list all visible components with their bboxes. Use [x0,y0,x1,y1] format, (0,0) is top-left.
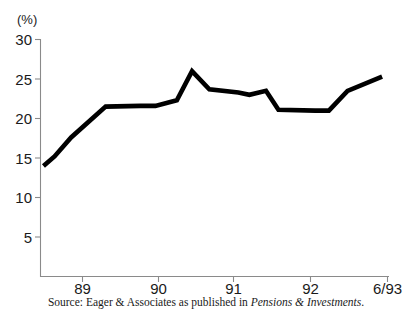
line-chart: 30 25 20 15 10 5 (%) 89 90 91 9 [0,0,412,317]
source-note-prefix: Source: Eager & Associates as published … [48,296,251,308]
source-note: Source: Eager & Associates as published … [0,296,412,308]
x-tick-label-89: 89 [74,280,91,297]
y-tick-label-25: 25 [15,71,32,88]
y-axis-unit-label: (%) [17,12,37,27]
y-axis: 30 25 20 15 10 5 (%) [15,12,40,277]
x-axis: 89 90 91 92 6/93 [40,277,402,298]
y-tick-label-10: 10 [15,189,32,206]
x-tick-label-90: 90 [150,280,167,297]
source-note-suffix: . [361,296,364,308]
x-tick-label-91: 91 [225,280,242,297]
y-tick-label-20: 20 [15,110,32,127]
y-axis-ticks [35,40,41,238]
chart-figure: 30 25 20 15 10 5 (%) 89 90 91 9 [0,0,412,317]
y-tick-label-5: 5 [24,229,32,246]
y-tick-label-15: 15 [15,150,32,167]
x-tick-label-693: 6/93 [373,280,402,297]
y-axis-tick-labels: 30 25 20 15 10 5 [15,31,32,246]
source-note-publication: Pensions & Investments [251,296,362,308]
x-axis-tick-labels: 89 90 91 92 6/93 [74,280,402,297]
x-tick-label-92: 92 [302,280,319,297]
data-series-line [43,71,382,166]
y-tick-label-30: 30 [15,31,32,48]
